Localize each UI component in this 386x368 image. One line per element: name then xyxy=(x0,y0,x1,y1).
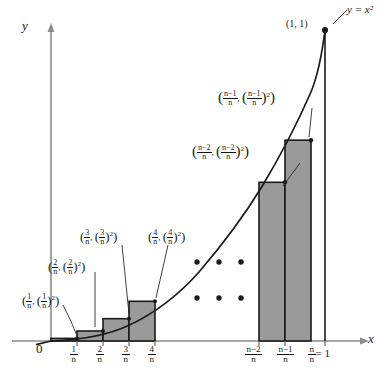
coord-label-n-2: (n−2n, (n−2n)2) xyxy=(192,142,249,162)
ellipsis-dot-1 xyxy=(194,259,199,264)
coord-label-2: (2n, (2n)2) xyxy=(48,258,85,277)
xtick-1-num: 1 xyxy=(70,345,78,354)
origin-label: 0 xyxy=(36,341,43,357)
leader-curve-label xyxy=(333,10,347,24)
xtick-3-num: 3 xyxy=(122,345,130,354)
xtick-2-num: 2 xyxy=(96,345,104,354)
coord-3-x-num: 3 xyxy=(84,229,90,237)
corner-dot-3 xyxy=(127,317,131,321)
corner-dot-n-1 xyxy=(309,138,313,142)
xtick-n-n-suffix: = 1 xyxy=(316,347,330,359)
xtick-n-n-den: n xyxy=(308,354,316,364)
coord-4-x-num: 4 xyxy=(152,229,158,237)
corner-dot-4 xyxy=(153,299,157,303)
coord-n-2-y-num: n−2 xyxy=(221,144,236,152)
point-one-one-marker xyxy=(322,27,328,33)
ellipsis-dot-6 xyxy=(238,295,243,300)
x-axis-label: x xyxy=(368,331,374,347)
coord-label-4: (4n, (4n)2) xyxy=(148,228,185,247)
rect-n-1 xyxy=(285,140,311,341)
xtick-4-num: 4 xyxy=(148,345,156,354)
coord-n-1-y-num: n−1 xyxy=(247,90,262,98)
xtick-label-2: 2n xyxy=(96,345,104,364)
xtick-label-n-2: n−2n xyxy=(245,345,262,364)
axes xyxy=(12,23,369,344)
xtick-n-1-num: n−1 xyxy=(277,345,294,354)
coord-3-x-den: n xyxy=(84,237,90,246)
coord-n-1-y-den: n xyxy=(247,98,262,107)
coord-label-1: (1n, (1n)2) xyxy=(22,292,59,311)
coord-label-3: (3n, (3n)2) xyxy=(80,228,117,247)
leader-3 xyxy=(122,245,129,314)
coord-1-x-num: 1 xyxy=(26,293,32,301)
xtick-n-n-num: n xyxy=(308,345,316,354)
xtick-n-2-den: n xyxy=(245,354,262,364)
rect-4 xyxy=(129,301,155,341)
y-axis-label: y xyxy=(22,18,28,34)
xtick-label-n-1: n−1n xyxy=(277,345,294,364)
leader-1 xyxy=(63,305,77,336)
ellipsis-dots xyxy=(194,259,243,300)
leader-n-1 xyxy=(309,108,312,137)
coord-1-x-den: n xyxy=(26,301,32,310)
coord-2-x-den: n xyxy=(52,267,58,276)
corner-dot-1 xyxy=(75,336,79,340)
xtick-3-den: n xyxy=(122,354,130,364)
rect-n-2 xyxy=(259,182,285,341)
coord-n-2-x-den: n xyxy=(197,152,212,161)
coord-label-n-1: (n−1n, (n−1n)2) xyxy=(218,88,275,108)
figure-canvas: y x 0 y = x² (1, 1) 1n 2n 3n 4n n−2n n−1… xyxy=(0,0,386,368)
xtick-label-4: 4n xyxy=(148,345,156,364)
xtick-label-3: 3n xyxy=(122,345,130,364)
xtick-1-den: n xyxy=(70,354,78,364)
xtick-label-n-n: nn= 1 xyxy=(308,345,330,364)
xtick-4-den: n xyxy=(148,354,156,364)
xtick-2-den: n xyxy=(96,354,104,364)
ellipsis-dot-5 xyxy=(216,295,221,300)
coord-n-2-x-num: n−2 xyxy=(197,144,212,152)
coord-n-1-x-den: n xyxy=(223,98,238,107)
xtick-n-2-num: n−2 xyxy=(245,345,262,354)
coord-n-1-x-num: n−1 xyxy=(223,90,238,98)
coord-2-x-num: 2 xyxy=(52,259,58,267)
coord-4-x-den: n xyxy=(152,237,158,246)
leader-4 xyxy=(156,245,168,298)
ellipsis-dot-3 xyxy=(238,259,243,264)
y-axis-arrow xyxy=(48,23,55,32)
xtick-n-1-den: n xyxy=(277,354,294,364)
ellipsis-dot-4 xyxy=(194,295,199,300)
corner-dot-2 xyxy=(101,329,105,333)
riemann-sum-svg xyxy=(0,0,386,368)
point-one-one-label: (1, 1) xyxy=(286,18,308,29)
coord-n-2-y-den: n xyxy=(221,152,236,161)
curve-equation-label: y = x² xyxy=(347,3,373,15)
xtick-label-1: 1n xyxy=(70,345,78,364)
ellipsis-dot-2 xyxy=(216,259,221,264)
